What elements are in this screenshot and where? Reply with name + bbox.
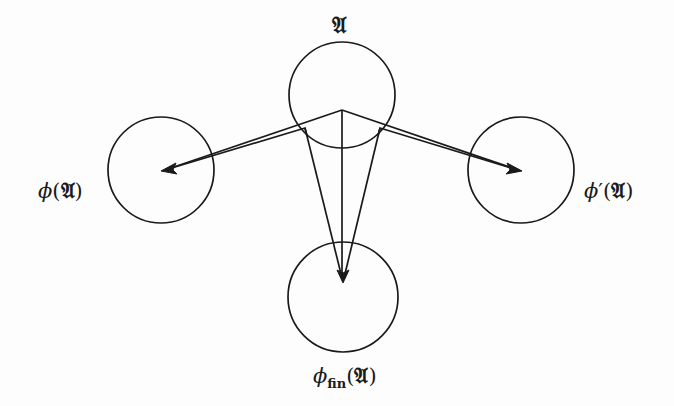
node-label-phi-fin-A: ϕfin(𝔄) (313, 365, 377, 387)
label-subscript-fin: fin (327, 376, 346, 391)
label-frak-A: 𝔄 (611, 178, 625, 203)
label-phi: ϕ (313, 364, 327, 388)
arrowhead-down-icon (337, 270, 349, 283)
label-frak-A: 𝔄 (332, 12, 347, 38)
label-frak-A: 𝔄 (61, 178, 75, 203)
node-circle-phi-fin-A (288, 242, 398, 352)
label-phi: ϕ (584, 179, 598, 203)
label-close-paren: ) (75, 179, 83, 203)
node-circle-phi-A (108, 117, 214, 223)
label-open-paren: ( (52, 179, 60, 203)
label-close-paren: ) (625, 179, 633, 203)
node-label-phi-prime-A: ϕ′(𝔄) (584, 180, 634, 202)
arrowhead-left-icon (161, 163, 177, 174)
diagram-canvas: ​ (0, 0, 674, 406)
node-label-phi-A: ϕ(𝔄) (38, 180, 83, 202)
node-label-A: 𝔄 (332, 14, 347, 36)
arrowhead-right-icon (506, 163, 522, 174)
edge-A-to-phi-fin-A (305, 110, 380, 278)
label-phi: ϕ (38, 179, 52, 203)
label-close-paren: ) (368, 364, 376, 388)
diagram-graphic (0, 0, 674, 406)
label-frak-A: 𝔄 (354, 363, 368, 388)
